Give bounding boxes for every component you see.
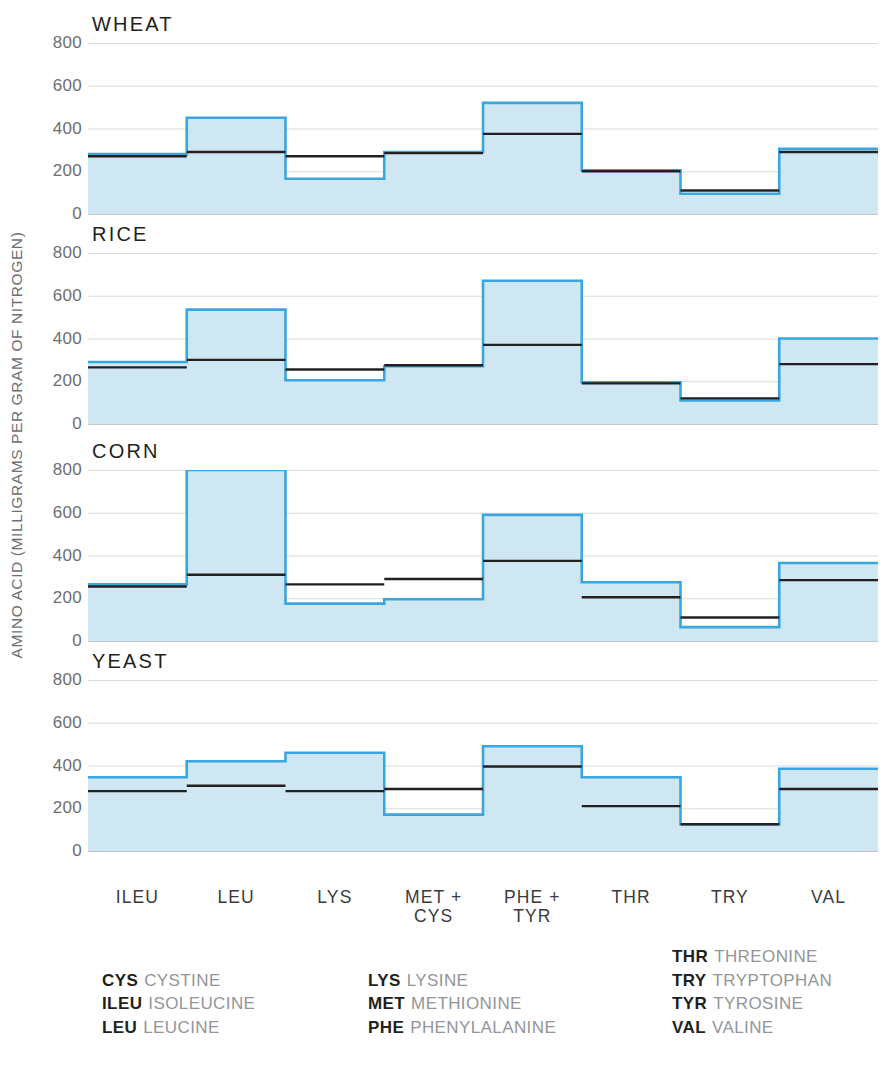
y-tick-label: 800: [36, 33, 82, 53]
y-tick-label: 800: [36, 460, 82, 480]
legend-item: VALVALINE: [672, 1016, 832, 1040]
panel-title: CORN: [92, 440, 160, 463]
legend-abbreviation: VAL: [672, 1018, 706, 1037]
x-axis-label-line1: LEU: [217, 887, 254, 907]
legend-full-name: CYSTINE: [144, 971, 220, 990]
plot-area: [88, 253, 878, 424]
x-axis-label-line1: TRY: [711, 887, 749, 907]
y-tick-label: 400: [36, 119, 82, 139]
x-axis-label-line1: MET +: [405, 887, 462, 907]
legend-abbreviation: MET: [368, 994, 405, 1013]
legend-column: CYSCYSTINEILEUISOLEUCINELEULEUCINE: [102, 969, 255, 1040]
legend-column: THRTHREONINETRYTRYPTOPHANTYRTYROSINEVALV…: [672, 945, 832, 1039]
legend-full-name: ISOLEUCINE: [148, 994, 255, 1013]
x-axis-label-phe: PHE +TYR: [483, 884, 582, 932]
y-tick-label: 0: [36, 841, 82, 861]
legend-abbreviation: TRY: [672, 971, 707, 990]
legend-full-name: LEUCINE: [143, 1018, 220, 1037]
legend-abbreviation: ILEU: [102, 994, 142, 1013]
x-axis-label-line1: ILEU: [116, 887, 159, 907]
x-axis-label-met: MET +CYS: [384, 884, 483, 932]
x-axis-label-line1: PHE +: [504, 887, 561, 907]
legend-full-name: LYSINE: [407, 971, 469, 990]
amino-acid-chart-figure: AMINO ACID (MILLIGRAMS PER GRAM OF NITRO…: [0, 0, 880, 1068]
panel-title: WHEAT: [92, 13, 174, 36]
abbreviation-legend: CYSCYSTINEILEUISOLEUCINELEULEUCINELYSLYS…: [88, 945, 878, 1037]
legend-item: TRYTRYPTOPHAN: [672, 969, 832, 993]
y-axis-title-text: AMINO ACID (MILLIGRAMS PER GRAM OF NITRO…: [8, 232, 26, 659]
legend-abbreviation: LEU: [102, 1018, 137, 1037]
y-tick-label: 600: [36, 713, 82, 733]
plot-area: [88, 470, 878, 641]
legend-column: LYSLYSINEMETMETHIONINEPHEPHENYLALANINE: [368, 969, 556, 1040]
legend-abbreviation: LYS: [368, 971, 401, 990]
x-axis-label-lys: LYS: [286, 884, 385, 932]
y-tick-label: 800: [36, 670, 82, 690]
y-tick-label: 200: [36, 798, 82, 818]
panel-title: YEAST: [92, 650, 169, 673]
x-axis-category-labels: ILEULEULYSMET +CYSPHE +TYRTHRTRYVAL: [88, 884, 878, 932]
y-tick-label: 400: [36, 756, 82, 776]
x-axis-label-thr: THR: [582, 884, 681, 932]
legend-item: ILEUISOLEUCINE: [102, 992, 255, 1016]
x-axis-label-line1: LYS: [317, 887, 352, 907]
x-axis-label-val: VAL: [779, 884, 878, 932]
legend-item: LEULEUCINE: [102, 1016, 255, 1040]
x-axis-label-line1: VAL: [811, 887, 846, 907]
legend-full-name: PHENYLALANINE: [410, 1018, 556, 1037]
legend-item: CYSCYSTINE: [102, 969, 255, 993]
legend-full-name: VALINE: [712, 1018, 774, 1037]
legend-full-name: METHIONINE: [411, 994, 522, 1013]
legend-abbreviation: TYR: [672, 994, 707, 1013]
x-axis-label-line2: TYR: [483, 907, 582, 926]
y-tick-label: 200: [36, 588, 82, 608]
x-axis-label-leu: LEU: [187, 884, 286, 932]
y-tick-label: 200: [36, 161, 82, 181]
legend-item: TYRTYROSINE: [672, 992, 832, 1016]
y-tick-label: 600: [36, 503, 82, 523]
y-tick-label: 0: [36, 204, 82, 224]
y-tick-label: 200: [36, 371, 82, 391]
y-axis-title: AMINO ACID (MILLIGRAMS PER GRAM OF NITRO…: [0, 0, 34, 890]
legend-abbreviation: PHE: [368, 1018, 404, 1037]
y-tick-label: 0: [36, 414, 82, 434]
legend-item: PHEPHENYLALANINE: [368, 1016, 556, 1040]
legend-abbreviation: THR: [672, 947, 708, 966]
y-tick-label: 600: [36, 76, 82, 96]
x-axis-label-try: TRY: [681, 884, 780, 932]
legend-full-name: TRYPTOPHAN: [713, 971, 833, 990]
plot-area: [88, 680, 878, 851]
legend-full-name: TYROSINE: [713, 994, 803, 1013]
y-tick-label: 600: [36, 286, 82, 306]
y-tick-label: 400: [36, 329, 82, 349]
plot-area: [88, 43, 878, 214]
legend-item: THRTHREONINE: [672, 945, 832, 969]
legend-item: METMETHIONINE: [368, 992, 556, 1016]
panel-title: RICE: [92, 223, 149, 246]
x-axis-label-line1: THR: [611, 887, 650, 907]
x-axis-label-line2: CYS: [384, 907, 483, 926]
x-axis-label-ileu: ILEU: [88, 884, 187, 932]
y-tick-label: 400: [36, 546, 82, 566]
legend-abbreviation: CYS: [102, 971, 138, 990]
y-tick-label: 0: [36, 631, 82, 651]
legend-full-name: THREONINE: [714, 947, 818, 966]
legend-item: LYSLYSINE: [368, 969, 556, 993]
y-tick-label: 800: [36, 243, 82, 263]
